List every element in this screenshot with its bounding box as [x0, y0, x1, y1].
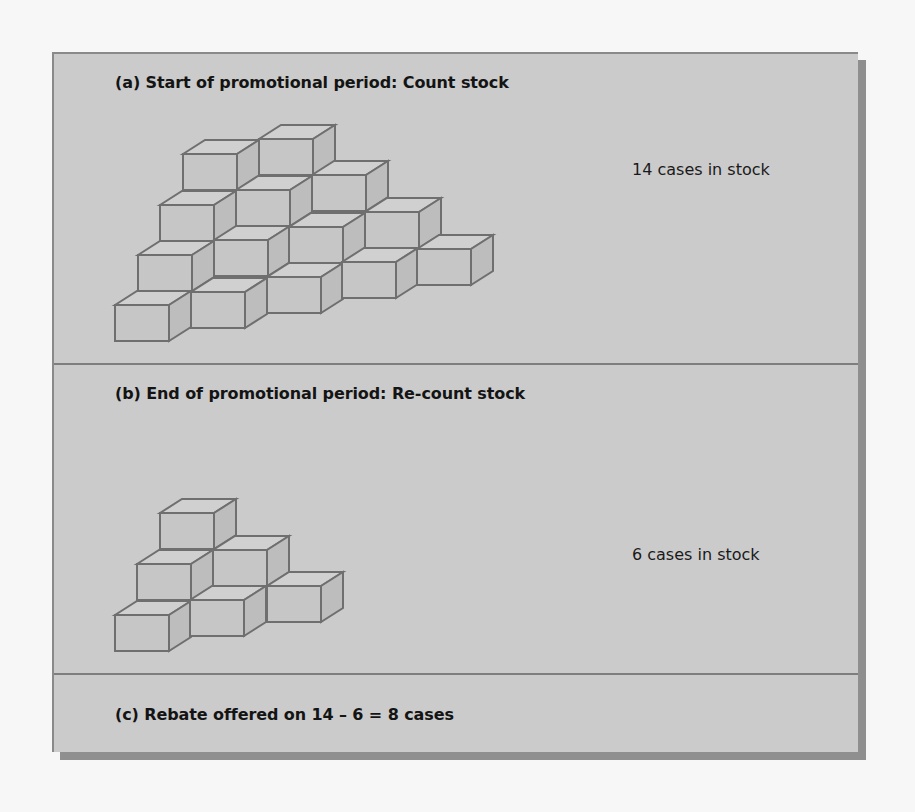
panel-b-heading: (b) End of promotional period: Re-count … — [115, 384, 525, 403]
panel-b-count-label: 6 cases in stock — [632, 545, 760, 564]
panel-rebate: (c) Rebate offered on 14 – 6 = 8 cases — [54, 673, 858, 754]
panel-a-heading: (a) Start of promotional period: Count s… — [115, 73, 509, 92]
panel-start-count: (a) Start of promotional period: Count s… — [54, 54, 858, 363]
stock-count-figure: (a) Start of promotional period: Count s… — [52, 52, 858, 752]
panel-end-recount: (b) End of promotional period: Re-count … — [54, 363, 858, 673]
panel-c-heading: (c) Rebate offered on 14 – 6 = 8 cases — [115, 705, 454, 724]
panel-a-count-label: 14 cases in stock — [632, 160, 770, 179]
